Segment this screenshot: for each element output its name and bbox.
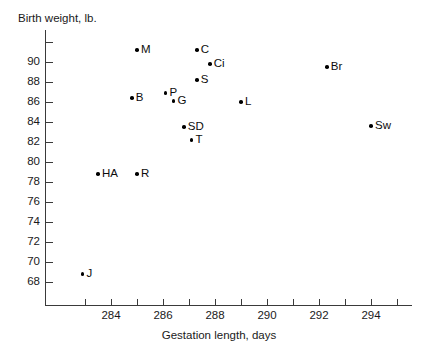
y-ticklabel-wrap: 70 bbox=[0, 256, 40, 268]
y-ticklabel-wrap: 74 bbox=[0, 216, 40, 228]
data-label-SD: SD bbox=[188, 121, 204, 133]
y-ticklabel-90: 90 bbox=[18, 56, 40, 68]
y-tick-76 bbox=[46, 202, 53, 203]
data-label-Br: Br bbox=[331, 61, 343, 73]
y-ticklabel-wrap: 84 bbox=[0, 116, 40, 128]
y-tick-92 bbox=[46, 42, 53, 43]
x-tick-295 bbox=[397, 299, 398, 305]
data-label-L: L bbox=[245, 96, 251, 108]
x-ticklabel-288: 288 bbox=[195, 309, 235, 321]
x-tick-292 bbox=[319, 299, 320, 305]
y-tick-88 bbox=[46, 82, 53, 83]
x-tick-288 bbox=[215, 299, 216, 305]
y-ticklabel-68: 68 bbox=[18, 276, 40, 288]
y-tick-68 bbox=[46, 282, 53, 283]
data-point-L bbox=[239, 100, 243, 104]
x-axis-title: Gestation length, days bbox=[0, 329, 438, 341]
y-ticklabel-72: 72 bbox=[18, 236, 40, 248]
data-point-HA bbox=[96, 172, 100, 176]
y-ticklabel-wrap: 88 bbox=[0, 76, 40, 88]
data-point-B bbox=[130, 96, 134, 100]
x-tick-287 bbox=[189, 299, 190, 305]
data-point-Sw bbox=[369, 124, 373, 128]
x-ticklabel-294: 294 bbox=[351, 309, 391, 321]
y-tick-78 bbox=[46, 182, 53, 183]
data-point-P bbox=[164, 91, 168, 95]
data-point-C bbox=[195, 48, 199, 52]
y-ticklabel-70: 70 bbox=[18, 256, 40, 268]
x-ticklabel-292: 292 bbox=[299, 309, 339, 321]
x-axis-line bbox=[45, 305, 412, 306]
y-ticklabel-82: 82 bbox=[18, 136, 40, 148]
y-ticklabel-wrap: 86 bbox=[0, 96, 40, 108]
y-tick-70 bbox=[46, 262, 53, 263]
x-tick-283 bbox=[85, 299, 86, 305]
y-ticklabel-84: 84 bbox=[18, 116, 40, 128]
x-tick-285 bbox=[137, 299, 138, 305]
data-point-J bbox=[81, 272, 85, 276]
y-ticklabel-wrap: 80 bbox=[0, 156, 40, 168]
y-ticklabel-88: 88 bbox=[18, 76, 40, 88]
data-label-HA: HA bbox=[102, 168, 118, 180]
data-point-T bbox=[190, 138, 194, 142]
y-ticklabel-wrap: 90 bbox=[0, 56, 40, 68]
data-label-J: J bbox=[86, 268, 92, 280]
data-point-G bbox=[172, 99, 176, 103]
data-point-R bbox=[135, 172, 139, 176]
data-label-Ci: Ci bbox=[214, 58, 225, 70]
y-ticklabel-74: 74 bbox=[18, 216, 40, 228]
x-ticklabel-284: 284 bbox=[91, 309, 131, 321]
y-ticklabel-wrap: 82 bbox=[0, 136, 40, 148]
data-label-T: T bbox=[196, 134, 203, 146]
data-point-S bbox=[195, 78, 199, 82]
y-tick-82 bbox=[46, 142, 53, 143]
data-point-Br bbox=[325, 65, 329, 69]
y-tick-80 bbox=[46, 162, 53, 163]
data-label-Sw: Sw bbox=[375, 120, 391, 132]
y-ticklabel-80: 80 bbox=[18, 156, 40, 168]
x-tick-286 bbox=[163, 299, 164, 305]
x-ticklabel-286: 286 bbox=[143, 309, 183, 321]
data-label-S: S bbox=[201, 74, 209, 86]
y-tick-84 bbox=[46, 122, 53, 123]
x-tick-293 bbox=[345, 299, 346, 305]
data-label-R: R bbox=[141, 168, 149, 180]
data-label-P: P bbox=[170, 87, 178, 99]
data-point-M bbox=[135, 48, 139, 52]
data-label-B: B bbox=[136, 92, 144, 104]
scatter-chart: Birth weight, lb. 6870727476788082848688… bbox=[0, 0, 438, 350]
y-ticklabel-wrap: 76 bbox=[0, 196, 40, 208]
x-tick-290 bbox=[267, 299, 268, 305]
y-ticklabel-wrap: 68 bbox=[0, 276, 40, 288]
y-axis-line bbox=[45, 30, 46, 305]
x-ticklabel-290: 290 bbox=[247, 309, 287, 321]
x-tick-289 bbox=[241, 299, 242, 305]
x-tick-291 bbox=[293, 299, 294, 305]
y-ticklabel-76: 76 bbox=[18, 196, 40, 208]
y-tick-90 bbox=[46, 62, 53, 63]
data-point-SD bbox=[182, 125, 186, 129]
y-tick-86 bbox=[46, 102, 53, 103]
y-tick-72 bbox=[46, 242, 53, 243]
data-label-G: G bbox=[177, 95, 186, 107]
y-ticklabel-wrap: 78 bbox=[0, 176, 40, 188]
x-tick-284 bbox=[111, 299, 112, 305]
data-point-Ci bbox=[208, 62, 212, 66]
data-label-M: M bbox=[141, 44, 151, 56]
x-tick-294 bbox=[371, 299, 372, 305]
y-ticklabel-86: 86 bbox=[18, 96, 40, 108]
y-tick-74 bbox=[46, 222, 53, 223]
data-label-C: C bbox=[201, 44, 209, 56]
y-ticklabel-78: 78 bbox=[18, 176, 40, 188]
y-ticklabel-wrap: 72 bbox=[0, 236, 40, 248]
y-axis-title: Birth weight, lb. bbox=[18, 12, 97, 24]
